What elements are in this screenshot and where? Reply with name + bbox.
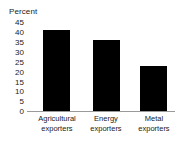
x-axis-baseline xyxy=(27,111,175,112)
y-axis-tick-labels: 45 40 35 30 25 20 15 10 5 0 xyxy=(0,0,24,148)
y-tick-label: 35 xyxy=(2,39,24,47)
x-label-line-2: exporters xyxy=(124,124,179,134)
y-tick-label: 30 xyxy=(2,49,24,57)
bar-energy-exporters xyxy=(93,40,120,111)
y-tick-label: 15 xyxy=(2,79,24,87)
x-axis-category-labels: Agricultural exporters Energy exporters … xyxy=(27,114,175,142)
bar-chart: Percent 45 40 35 30 25 20 15 10 5 0 Agri… xyxy=(0,0,179,148)
y-tick-label: 20 xyxy=(2,69,24,77)
x-label-metal-exporters: Metal exporters xyxy=(124,114,179,134)
y-tick-label: 45 xyxy=(2,19,24,27)
y-tick-label: 10 xyxy=(2,88,24,96)
y-tick-label: 0 xyxy=(2,108,24,116)
bar-metal-exporters xyxy=(140,66,167,111)
y-tick-label: 40 xyxy=(2,29,24,37)
x-label-line-1: Metal xyxy=(124,114,179,124)
y-tick-label: 5 xyxy=(2,98,24,106)
y-tick-label: 25 xyxy=(2,59,24,67)
bar-agricultural-exporters xyxy=(43,30,70,111)
